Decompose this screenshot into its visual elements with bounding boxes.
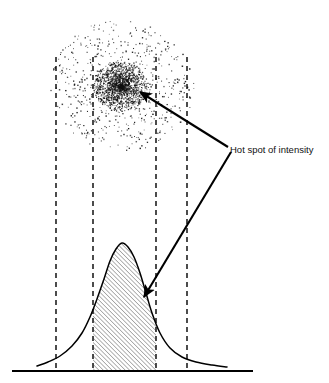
shaded-band-group [93,243,156,371]
figure-container: Hot spot of intensity [0,0,329,383]
point-cloud-group [50,21,194,151]
callout-arrows [140,92,231,297]
hatched-hot-spot-band [93,243,156,371]
callout-to-hot-core [140,92,228,147]
intensity-profile-figure: Hot spot of intensity [0,0,329,383]
hot-spot-annotation-label: Hot spot of intensity [230,144,314,155]
